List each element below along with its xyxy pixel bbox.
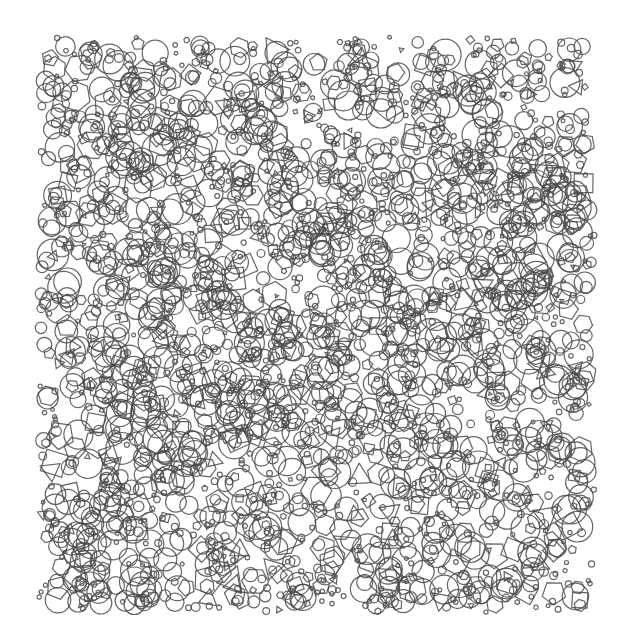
square-shape (106, 173, 109, 176)
circle-shape (231, 134, 236, 139)
circle-shape (568, 530, 572, 534)
circle-shape (127, 562, 131, 566)
circle-shape (354, 490, 359, 495)
circle-shape (71, 85, 77, 91)
circle-shape (549, 475, 553, 479)
circle-shape (467, 420, 475, 428)
circle-shape (39, 590, 43, 594)
circle-shape (409, 561, 414, 566)
circle-shape (203, 327, 225, 349)
circle-shape (556, 409, 562, 415)
pentagon-shape (447, 498, 452, 503)
circle-shape (234, 53, 246, 65)
pentagon-shape (363, 498, 367, 502)
pentagon-shape (545, 53, 552, 60)
circle-shape (352, 446, 361, 455)
generative-artwork (0, 0, 627, 636)
circle-shape (131, 72, 160, 101)
circle-shape (217, 472, 222, 477)
hexagon-shape (143, 541, 148, 546)
hexagon-shape (337, 286, 343, 292)
circle-shape (587, 357, 591, 361)
circle-shape (263, 358, 268, 363)
circle-shape (288, 41, 293, 46)
circle-shape (429, 545, 437, 553)
circle-shape (460, 437, 487, 464)
pentagon-shape (202, 485, 208, 491)
hexagon-shape (301, 477, 332, 504)
square-shape (42, 203, 47, 208)
square-shape (98, 129, 103, 134)
circle-shape (265, 530, 269, 534)
circle-shape (179, 128, 192, 141)
triangle-shape (319, 428, 340, 450)
circle-shape (180, 63, 184, 67)
square-shape (454, 222, 460, 228)
circle-shape (372, 45, 377, 50)
circle-shape (165, 394, 188, 417)
circle-shape (432, 95, 438, 101)
square-shape (466, 36, 475, 45)
circle-shape (267, 172, 298, 203)
circle-shape (55, 35, 60, 40)
circle-shape (38, 207, 66, 235)
square-shape (288, 478, 292, 482)
circle-shape (549, 330, 572, 353)
pentagon-shape (526, 523, 536, 534)
circle-shape (38, 384, 42, 388)
circle-shape (556, 348, 564, 356)
circle-shape (513, 143, 534, 164)
circle-shape (520, 237, 536, 253)
circle-shape (211, 478, 218, 485)
circle-shape (471, 86, 477, 92)
square-shape (104, 478, 109, 483)
circle-shape (588, 561, 594, 567)
hexagon-shape (47, 311, 52, 316)
hexagon-shape (305, 293, 319, 307)
hexagon-shape (277, 482, 282, 487)
circle-shape (134, 466, 152, 484)
circle-shape (265, 479, 274, 488)
triangle-shape (379, 505, 400, 524)
circle-shape (349, 440, 355, 446)
circle-shape (494, 328, 504, 338)
hexagon-shape (262, 282, 287, 309)
circle-shape (485, 36, 489, 40)
circle-shape (437, 362, 457, 382)
circle-shape (350, 297, 355, 302)
pentagon-shape (251, 47, 255, 51)
hexagon-shape (422, 217, 428, 223)
square-shape (236, 495, 244, 503)
circle-shape (38, 149, 44, 155)
square-shape (521, 104, 527, 110)
hexagon-shape (548, 285, 553, 289)
pentagon-shape (193, 522, 201, 530)
circle-shape (90, 77, 115, 102)
circle-shape (531, 388, 546, 403)
circle-shape (553, 315, 557, 319)
pentagon-shape (414, 83, 420, 90)
circle-shape (366, 144, 392, 170)
hexagon-shape (294, 40, 298, 44)
circle-shape (580, 330, 592, 342)
circle-shape (154, 62, 168, 76)
square-shape (269, 565, 287, 583)
circle-shape (431, 127, 442, 138)
hexagon-shape (180, 562, 184, 566)
pentagon-shape (174, 52, 178, 56)
hexagon-shape (188, 71, 200, 82)
pentagon-shape (85, 404, 92, 411)
square-shape (100, 408, 105, 413)
circle-shape (161, 89, 168, 96)
hexagon-shape (186, 201, 190, 205)
pentagon-shape (281, 379, 285, 383)
circle-shape (166, 593, 184, 611)
circle-shape (528, 72, 546, 90)
triangle-shape (352, 279, 356, 283)
circle-shape (272, 446, 301, 475)
hexagon-shape (496, 396, 500, 400)
circle-shape (170, 528, 192, 550)
circle-shape (451, 134, 456, 139)
circle-shape (115, 54, 124, 63)
pentagon-shape (243, 523, 248, 528)
